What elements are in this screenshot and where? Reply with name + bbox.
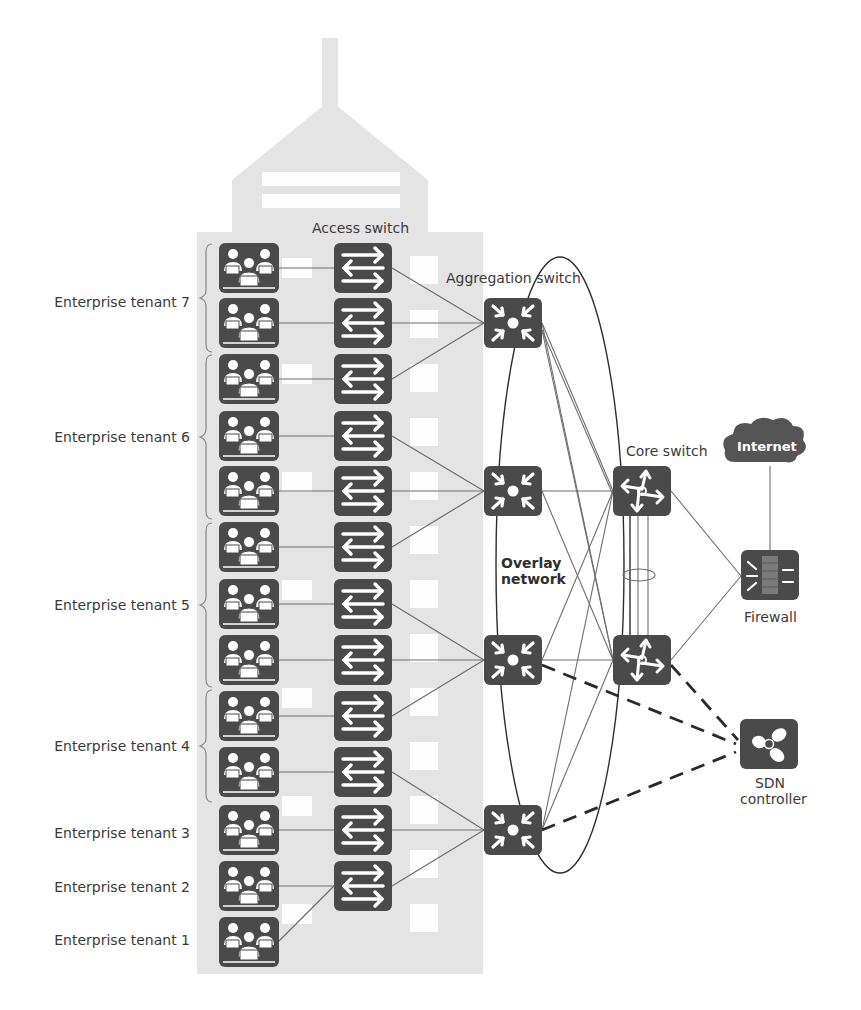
overlay-network-label: Overlay network: [501, 555, 566, 587]
overlay-network-label-line1: Overlay: [501, 555, 566, 571]
core-switches: [613, 466, 671, 685]
core-switch-label: Core switch: [626, 444, 708, 458]
diagram-canvas: [0, 0, 861, 1010]
network-diagram: Access switch Aggregation switch Core sw…: [0, 0, 861, 1010]
firewall-label: Firewall: [744, 610, 797, 624]
aggregation-switch-label: Aggregation switch: [446, 271, 581, 285]
access-switch-label: Access switch: [312, 221, 409, 235]
sdn-controller-label-line2: controller: [740, 792, 800, 806]
tenant-6-label: Enterprise tenant 6: [10, 430, 190, 444]
firewall-icon: [741, 550, 799, 600]
tenant-1-label: Enterprise tenant 1: [10, 933, 190, 947]
tenant-5-label: Enterprise tenant 5: [10, 598, 190, 612]
core-interconnect: [623, 515, 655, 637]
tenant-2-label: Enterprise tenant 2: [10, 880, 190, 894]
sdn-controller-icon: [740, 719, 798, 769]
overlay-network-label-line2: network: [501, 571, 566, 587]
tenant-4-label: Enterprise tenant 4: [10, 739, 190, 753]
tenant-3-label: Enterprise tenant 3: [10, 826, 190, 840]
sdn-controller-label-line1: SDN: [740, 776, 800, 790]
internet-label: Internet: [737, 440, 797, 453]
tenant-7-label: Enterprise tenant 7: [10, 295, 190, 309]
sdn-controller-label: SDN controller: [740, 776, 800, 806]
